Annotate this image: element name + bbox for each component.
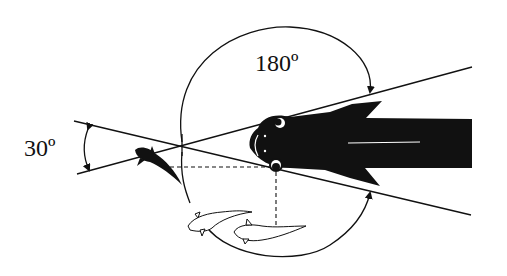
large-fish — [249, 101, 472, 186]
angle-label-180: 180º — [255, 50, 299, 76]
angle-30-arc — [84, 129, 89, 170]
angle-label-30: 30º — [24, 135, 56, 161]
small-fish-outline-2 — [234, 219, 306, 244]
diagram-canvas: 180º 30º — [0, 0, 507, 276]
